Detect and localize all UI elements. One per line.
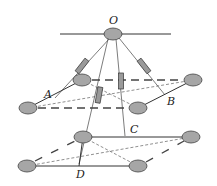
label-A: A [43, 88, 52, 101]
node-lower-back-left [74, 131, 92, 143]
node-O [104, 28, 122, 40]
node-upper-back-right [184, 74, 202, 86]
node-upper-front-left [19, 102, 37, 114]
node-upper-front-right [129, 102, 147, 114]
spring-center [119, 73, 124, 89]
node-lower-front-right [129, 160, 147, 172]
suspension-strings [55, 38, 165, 164]
node-lower-back-right [182, 131, 200, 143]
node-lower-front-left [18, 160, 36, 172]
label-C: C [130, 123, 139, 136]
label-O: O [109, 14, 118, 27]
spring-right [137, 58, 151, 74]
node-upper-back-left [73, 74, 91, 86]
spring-left [75, 58, 89, 74]
label-D: D [75, 168, 85, 181]
lower-plane [27, 137, 191, 166]
geometry-diagram: O A B C D [0, 0, 217, 186]
label-B: B [166, 95, 175, 108]
